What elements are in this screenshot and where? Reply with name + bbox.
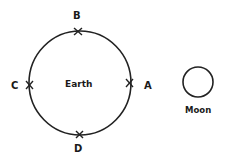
point-c-label: C [11, 80, 18, 91]
moon-label: Moon [185, 105, 211, 115]
point-d-label: D [74, 143, 82, 154]
moon-circle [183, 67, 213, 97]
earth-moon-diagram: A B C D Earth Moon [0, 0, 226, 159]
point-a-label: A [144, 80, 152, 91]
point-a-marker [126, 79, 133, 87]
point-b-label: B [73, 10, 81, 21]
earth-label: Earth [65, 79, 92, 89]
